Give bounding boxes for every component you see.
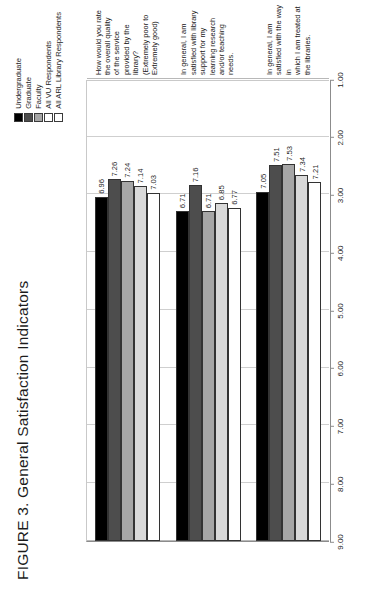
bar-row: 7.34 bbox=[295, 81, 308, 541]
category-axis-label-line: of the service provided by the library? bbox=[112, 2, 140, 75]
axis-tick: 3.00 bbox=[330, 188, 345, 204]
page-title: FIGURE 3. General Satisfaction Indicator… bbox=[14, 281, 32, 580]
bar-value-label: 6.96 bbox=[97, 179, 106, 194]
legend-item-label: All VU Respondents bbox=[44, 41, 53, 109]
legend-item-label: All ARL Library Respondents bbox=[54, 12, 63, 109]
category-axis-label-line: support for my learning research bbox=[198, 2, 217, 75]
legend-item: Undergraduate bbox=[14, 12, 23, 122]
bar-value-label: 7.05 bbox=[258, 174, 267, 189]
legend-swatch-faculty bbox=[34, 113, 43, 122]
bar-undergraduate bbox=[95, 197, 108, 541]
bar-row: 7.16 bbox=[189, 81, 202, 541]
axis-tick: 4.00 bbox=[330, 245, 345, 261]
legend-item: All ARL Library Respondents bbox=[54, 12, 63, 122]
legend-item-label: Faculty bbox=[34, 84, 43, 108]
bar-value-label: 6.85 bbox=[217, 185, 226, 200]
axis-tick-label: 1.00 bbox=[336, 72, 345, 88]
category-axis-label-line: (Extremely poor to Extremely good) bbox=[141, 2, 160, 75]
axis-tick-mark bbox=[330, 137, 334, 138]
axis-tick-label: 8.00 bbox=[336, 476, 345, 492]
bar-value-label: 7.26 bbox=[110, 162, 119, 177]
legend-item: Graduate bbox=[24, 12, 33, 122]
axis-tick-mark bbox=[330, 80, 334, 81]
axis-tick-label: 2.00 bbox=[336, 130, 345, 146]
bar-value-label: 6.77 bbox=[230, 190, 239, 205]
bar-value-label: 6.71 bbox=[178, 193, 187, 208]
category-axis-label-line: which I am treated at the libraries. bbox=[293, 2, 312, 75]
legend-swatch-all-arl-library-respondents bbox=[54, 113, 63, 122]
bar-all-arl-library-respondents bbox=[308, 182, 321, 541]
category-axis-label-line: and/or teaching needs. bbox=[217, 2, 236, 75]
axis-tick-mark bbox=[330, 484, 334, 485]
bar-value-label: 7.53 bbox=[284, 146, 293, 161]
bar-row: 6.85 bbox=[215, 81, 228, 541]
value-axis: 9.008.007.006.005.004.003.002.001.00 bbox=[330, 80, 370, 542]
axis-tick-mark bbox=[330, 542, 334, 543]
bar-graduate bbox=[189, 185, 202, 541]
axis-tick-label: 7.00 bbox=[336, 419, 345, 435]
bar-value-label: 7.16 bbox=[191, 167, 200, 182]
axis-tick: 2.00 bbox=[330, 130, 345, 146]
legend-swatch-undergraduate bbox=[14, 113, 23, 122]
category-axis-label-line: In general, I am satisfied with the way … bbox=[265, 2, 293, 75]
axis-tick-label: 5.00 bbox=[336, 303, 345, 319]
axis-tick-label: 9.00 bbox=[336, 534, 345, 550]
axis-tick: 9.00 bbox=[330, 534, 345, 550]
category-axis-label: In general, I am satisfied with librarys… bbox=[167, 2, 248, 80]
axis-tick: 1.00 bbox=[330, 72, 345, 88]
bar-row: 6.77 bbox=[228, 81, 241, 541]
bar-groups: 6.967.267.247.147.036.717.166.716.856.77… bbox=[87, 81, 329, 541]
axis-tick-label: 3.00 bbox=[336, 188, 345, 204]
bar-all-arl-library-respondents bbox=[228, 208, 241, 541]
bar-all-vu-respondents bbox=[295, 175, 308, 541]
category-axis-label: In general, I am satisfied with the way … bbox=[248, 2, 329, 80]
axis-tick: 5.00 bbox=[330, 303, 345, 319]
figure-canvas: FIGURE 3. General Satisfaction Indicator… bbox=[0, 0, 386, 604]
axis-tick-mark bbox=[330, 195, 334, 196]
bar-row: 6.96 bbox=[95, 81, 108, 541]
axis-tick: 6.00 bbox=[330, 361, 345, 377]
legend-item: Faculty bbox=[34, 12, 43, 122]
bar-row: 7.51 bbox=[269, 81, 282, 541]
axis-tick-mark bbox=[330, 368, 334, 369]
bar-row: 7.24 bbox=[121, 81, 134, 541]
bar-row: 6.71 bbox=[176, 81, 189, 541]
bar-value-label: 7.34 bbox=[297, 157, 306, 172]
bar-faculty bbox=[282, 164, 295, 541]
category-axis-label-line: In general, I am satisfied with library bbox=[179, 2, 198, 75]
bar-faculty bbox=[202, 211, 215, 541]
axis-tick: 7.00 bbox=[330, 419, 345, 435]
chart-legend: UndergraduateGraduateFacultyAll VU Respo… bbox=[14, 12, 63, 122]
bar-undergraduate bbox=[256, 192, 269, 541]
bar-row: 7.26 bbox=[108, 81, 121, 541]
bar-row: 7.05 bbox=[256, 81, 269, 541]
axis-tick-label: 4.00 bbox=[336, 245, 345, 261]
bar-value-label: 7.24 bbox=[123, 163, 132, 178]
bar-row: 6.71 bbox=[202, 81, 215, 541]
bar-row: 7.03 bbox=[147, 81, 160, 541]
axis-tick-mark bbox=[330, 253, 334, 254]
legend-item-label: Undergraduate bbox=[14, 58, 23, 109]
plot-area: 6.967.267.247.147.036.717.166.716.856.77… bbox=[86, 80, 329, 542]
category-axis: How would you rate the overall qualityof… bbox=[86, 2, 329, 80]
legend-swatch-all-vu-respondents bbox=[44, 113, 53, 122]
bar-value-label: 7.51 bbox=[271, 147, 280, 162]
axis-tick: 8.00 bbox=[330, 476, 345, 492]
bar-value-label: 6.71 bbox=[204, 193, 213, 208]
legend-item: All VU Respondents bbox=[44, 12, 53, 122]
bar-row: 7.14 bbox=[134, 81, 147, 541]
bar-group: 7.057.517.537.347.21 bbox=[248, 81, 329, 541]
legend-item-label: Graduate bbox=[24, 77, 33, 109]
bar-value-label: 7.14 bbox=[136, 169, 145, 184]
rotated-page-frame: FIGURE 3. General Satisfaction Indicator… bbox=[0, 0, 386, 604]
bar-group: 6.717.166.716.856.77 bbox=[168, 81, 249, 541]
bar-all-arl-library-respondents bbox=[147, 193, 160, 541]
bar-graduate bbox=[108, 180, 121, 542]
bar-undergraduate bbox=[176, 211, 189, 541]
bar-all-vu-respondents bbox=[215, 203, 228, 541]
axis-tick-mark bbox=[330, 311, 334, 312]
axis-tick-mark bbox=[330, 426, 334, 427]
bar-row: 7.53 bbox=[282, 81, 295, 541]
bar-group: 6.967.267.247.147.03 bbox=[87, 81, 168, 541]
bar-value-label: 7.21 bbox=[310, 165, 319, 180]
